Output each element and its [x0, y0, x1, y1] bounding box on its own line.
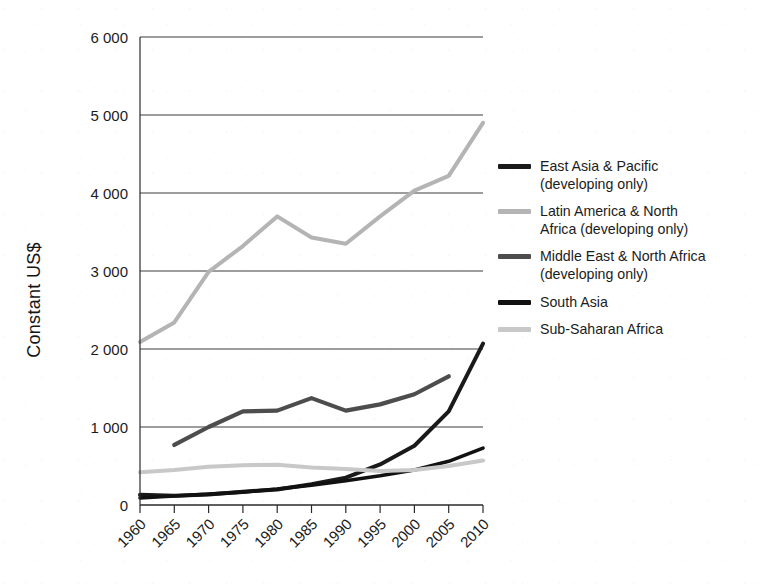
series-line [174, 376, 448, 445]
x-tick-label: 2010 [457, 515, 493, 551]
y-tick-label: 3 000 [90, 263, 128, 280]
x-axis-ticks [140, 505, 483, 513]
legend-swatch-icon [498, 300, 531, 305]
series-line [140, 123, 483, 342]
legend-item-label: Sub-Saharan Africa [540, 321, 760, 339]
x-tick-label: 1985 [285, 515, 321, 551]
legend-item[interactable]: Middle East & North Africa (developing o… [498, 248, 760, 283]
y-tick-label: 2 000 [90, 341, 128, 358]
series-line [140, 461, 483, 473]
series-line [140, 448, 483, 498]
gridlines-group [140, 37, 483, 427]
x-tick-label: 1975 [216, 515, 252, 551]
legend-item-label: South Asia [540, 294, 760, 312]
y-tick-label: 6 000 [90, 29, 128, 46]
legend-item-label: East Asia & Pacific (developing only) [540, 158, 760, 193]
legend-swatch-icon [498, 327, 531, 332]
y-axis-title: Constant US$ [24, 242, 44, 358]
y-tick-label: 5 000 [90, 107, 128, 124]
y-tick-label: 4 000 [90, 185, 128, 202]
x-tick-label: 2005 [422, 515, 458, 551]
x-tick-label: 1970 [182, 515, 218, 551]
y-axis-tick-labels: 01 0002 0003 0004 0005 0006 000 [90, 29, 128, 514]
x-tick-label: 2000 [388, 515, 424, 551]
legend-item[interactable]: Latin America & North Africa (developing… [498, 203, 760, 238]
series-line [140, 344, 483, 496]
legend-swatch-icon [498, 209, 531, 214]
data-series-group [140, 123, 483, 498]
x-axis-tick-labels: 1960196519701975198019851990199520002005… [114, 515, 493, 551]
x-tick-label: 1990 [319, 515, 355, 551]
y-tick-label: 0 [120, 497, 128, 514]
legend-item[interactable]: East Asia & Pacific (developing only) [498, 158, 760, 193]
x-tick-label: 1960 [114, 515, 150, 551]
y-tick-label: 1 000 [90, 419, 128, 436]
legend-item[interactable]: Sub-Saharan Africa [498, 321, 760, 339]
chart-legend: East Asia & Pacific (developing only)Lat… [498, 158, 760, 349]
legend-item[interactable]: South Asia [498, 294, 760, 312]
x-tick-label: 1995 [354, 515, 390, 551]
legend-item-label: Latin America & North Africa (developing… [540, 203, 760, 238]
legend-swatch-icon [498, 164, 531, 169]
legend-swatch-icon [498, 254, 531, 259]
legend-item-label: Middle East & North Africa (developing o… [540, 248, 760, 283]
x-tick-label: 1980 [251, 515, 287, 551]
x-tick-label: 1965 [148, 515, 184, 551]
